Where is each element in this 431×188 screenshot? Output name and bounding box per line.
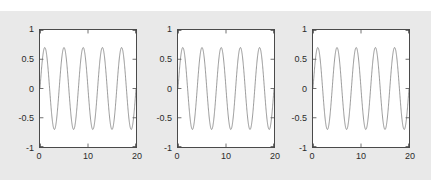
y-tick-label: -0.5	[291, 114, 307, 123]
x-tick-label: 20	[405, 151, 415, 161]
x-tick-label: 10	[83, 151, 93, 161]
waveform-line-3	[313, 48, 409, 130]
subplot-3: 1 0.5 0 -0.5 -1 0 10 20	[273, 11, 413, 180]
plot-area-1	[39, 29, 137, 148]
y-tick-label: 1	[302, 25, 307, 34]
y-tick-label: -1	[26, 144, 34, 153]
y-tick-label: 0	[29, 84, 34, 93]
x-axis-tick-labels-3: 0 10 20	[312, 151, 410, 165]
y-tick-label: 0.5	[159, 54, 172, 63]
subplot-2: 1 0.5 0 -0.5 -1 0 10 20	[138, 11, 278, 180]
plot-area-3	[312, 29, 410, 148]
y-tick-label: 1	[29, 25, 34, 34]
y-tick-label: -1	[164, 144, 172, 153]
x-tick-label: 0	[174, 151, 179, 161]
subplot-1: 1 0.5 0 -0.5 -1 0 10 20	[0, 11, 140, 180]
plot-area-2	[177, 29, 275, 148]
x-tick-label: 0	[309, 151, 314, 161]
figure-window: 1 0.5 0 -0.5 -1 0 10 20 1 0.5 0 -0.5 -1 …	[0, 11, 431, 180]
x-axis-tick-labels-1: 0 10 20	[39, 151, 137, 165]
y-tick-label: -0.5	[18, 114, 34, 123]
x-tick-label: 10	[221, 151, 231, 161]
y-tick-label: 0	[167, 84, 172, 93]
y-tick-label: 0.5	[294, 54, 307, 63]
y-axis-tick-labels-1: 1 0.5 0 -0.5 -1	[0, 29, 36, 148]
waveform-line-1	[40, 48, 136, 130]
plot-canvas-1	[40, 30, 136, 147]
plot-canvas-3	[313, 30, 409, 147]
y-axis-tick-labels-2: 1 0.5 0 -0.5 -1	[138, 29, 174, 148]
x-axis-tick-labels-2: 0 10 20	[177, 151, 275, 165]
x-tick-label: 0	[36, 151, 41, 161]
y-axis-tick-labels-3: 1 0.5 0 -0.5 -1	[273, 29, 309, 148]
waveform-line-2	[178, 48, 274, 130]
x-tick-label: 10	[356, 151, 366, 161]
y-tick-label: -1	[299, 144, 307, 153]
y-tick-label: 0	[302, 84, 307, 93]
y-tick-label: 1	[167, 25, 172, 34]
y-tick-label: -0.5	[156, 114, 172, 123]
plot-canvas-2	[178, 30, 274, 147]
y-tick-label: 0.5	[21, 54, 34, 63]
